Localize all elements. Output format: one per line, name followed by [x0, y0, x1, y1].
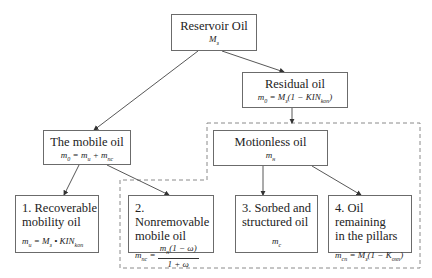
- node-residual-oil: Residual oil m0 = Mз(1 − KINkon): [242, 72, 348, 108]
- node-formula: Mз: [172, 33, 256, 49]
- node-title: The mobile oil: [44, 135, 130, 149]
- node-title: Reservoir Oil: [172, 19, 256, 33]
- node-oil-remaining-pillars: 4. Oil remaining in the pillars mcn = Mз…: [328, 195, 412, 253]
- node-title-line1: 1. Recoverable: [22, 201, 98, 215]
- edge-reservoir-residual: [222, 51, 284, 72]
- node-formula: mnc = mн(1 − ω)1 + ω: [135, 243, 213, 270]
- node-title-line1: 2. Nonremovable: [135, 201, 213, 229]
- node-title-line2: mobility oil: [22, 215, 98, 229]
- node-formula: mc: [242, 235, 317, 251]
- edge-mobile-recoverable: [64, 165, 79, 195]
- fraction: mн(1 − ω)1 + ω: [158, 243, 199, 270]
- node-title: Motionless oil: [214, 135, 327, 149]
- node-title-line1: 4. Oil remaining: [335, 201, 411, 229]
- node-formula: mcn = Mз(1 − Koxn): [335, 249, 411, 265]
- node-recoverable-mobility-oil: 1. Recoverable mobility oil mu = Mз • KI…: [15, 195, 99, 253]
- node-formula: mu = Mз • KINkon: [22, 235, 98, 251]
- node-title-line2: mobile oil: [135, 229, 213, 243]
- node-formula: mн: [214, 149, 327, 165]
- node-title-line2: structured oil: [242, 215, 317, 229]
- node-title: Residual oil: [243, 77, 347, 91]
- node-formula: m0 = Mз(1 − KINkon): [243, 91, 347, 107]
- node-motionless-oil: Motionless oil mн: [213, 130, 328, 166]
- node-nonremovable-mobile-oil: 2. Nonremovable mobile oil mnc = mн(1 − …: [128, 195, 214, 253]
- node-sorbed-structured-oil: 3. Sorbed and structured oil mc: [235, 195, 318, 253]
- node-mobile-oil: The mobile oil m0 = mu + mnc: [43, 130, 131, 165]
- node-formula: m0 = mu + mnc: [44, 149, 130, 165]
- edge-motionless-pillars: [312, 166, 361, 195]
- node-title-line2: in the pillars: [335, 229, 411, 243]
- edge-reservoir-mobile: [94, 51, 198, 130]
- node-title-line1: 3. Sorbed and: [242, 201, 317, 215]
- node-reservoir-oil: Reservoir Oil Mз: [171, 14, 257, 51]
